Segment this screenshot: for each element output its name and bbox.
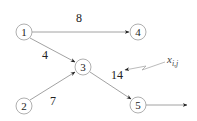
svg-text:4: 4 <box>135 26 141 38</box>
edge-1-3 <box>30 38 75 62</box>
node-2: 2 <box>16 98 32 114</box>
node-5: 5 <box>130 97 146 113</box>
edge-label-1-4: 8 <box>76 11 82 25</box>
annotation-pointer <box>125 62 165 70</box>
svg-text:3: 3 <box>80 61 86 73</box>
svg-text:1: 1 <box>21 26 27 38</box>
edge-label-1-3: 4 <box>42 48 48 62</box>
node-3: 3 <box>75 59 91 75</box>
node-1: 1 <box>16 24 32 40</box>
svg-text:2: 2 <box>21 100 27 112</box>
network-diagram: 8 4 7 14 xi,j 1 2 3 4 5 <box>0 0 197 121</box>
annotation-label: xi,j <box>166 53 179 68</box>
edge-label-3-5: 14 <box>111 68 123 82</box>
node-4: 4 <box>130 24 146 40</box>
edge-label-2-3: 7 <box>50 94 56 108</box>
svg-text:5: 5 <box>135 99 141 111</box>
